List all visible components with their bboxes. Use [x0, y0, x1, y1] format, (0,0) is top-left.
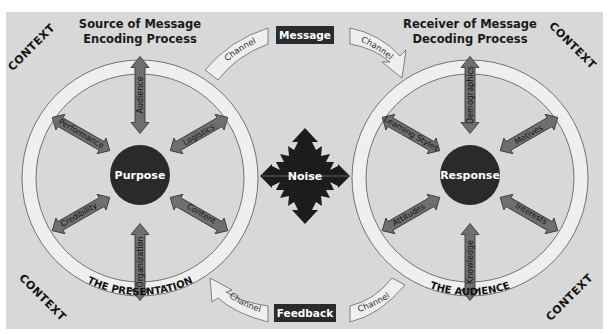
label-demographics: Demographics [466, 66, 475, 124]
purpose-label: Purpose [115, 169, 166, 182]
source-header: Source of Message Encoding Process [79, 17, 201, 46]
label-organization: Organization [136, 236, 145, 287]
noise-label: Noise [288, 170, 323, 183]
context-label-bottom-right: CONTEXT [543, 271, 595, 323]
label-audience: Audience [136, 76, 145, 113]
svg-text:Receiver of Message: Receiver of Message [403, 17, 537, 31]
svg-text:Decoding Process: Decoding Process [413, 32, 528, 46]
receiver-header: Receiver of Message Decoding Process [403, 17, 537, 46]
message-box: Message [276, 26, 334, 44]
feedback-box: Feedback [274, 304, 336, 322]
svg-text:Message: Message [279, 29, 331, 41]
context-label-bottom-left: CONTEXT [16, 271, 68, 323]
response-hub: Response [440, 145, 500, 205]
label-knowledge: Knowledge [466, 240, 475, 284]
communication-model-diagram: Audience Logistics Content Organization … [0, 0, 608, 334]
svg-text:Encoding Process: Encoding Process [83, 32, 197, 46]
response-label: Response [440, 169, 500, 182]
svg-text:Source of Message: Source of Message [79, 17, 201, 31]
svg-text:Feedback: Feedback [277, 307, 334, 319]
context-label-top-right: CONTEXT [546, 19, 598, 71]
noise-starburst: Noise [260, 128, 350, 224]
context-label-top-left: CONTEXT [5, 21, 57, 73]
purpose-hub: Purpose [110, 145, 170, 205]
